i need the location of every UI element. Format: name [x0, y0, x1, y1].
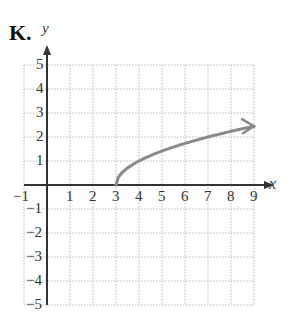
y-tick-label: −5 [26, 296, 42, 313]
y-tick-label: 1 [36, 152, 44, 169]
x-tick-label: 9 [250, 188, 258, 205]
y-tick-label: −4 [26, 272, 42, 289]
x-tick-label: 4 [135, 188, 143, 205]
y-tick-label: 3 [36, 104, 44, 121]
x-axis-label: x [269, 175, 276, 193]
x-tick-label: 7 [204, 188, 212, 205]
y-tick-label: 5 [36, 56, 44, 73]
y-tick-label: 2 [36, 128, 44, 145]
axes [24, 45, 274, 305]
y-tick-label: −2 [26, 224, 42, 241]
x-tick-label: 6 [181, 188, 189, 205]
y-tick-label: −1 [26, 200, 42, 217]
y-axis-label: y [42, 20, 49, 37]
x-tick-label: 8 [227, 188, 235, 205]
y-tick-label: 4 [36, 80, 44, 97]
x-tick-label: 5 [158, 188, 166, 205]
x-tick-label: 1 [66, 188, 74, 205]
problem-label: K. [9, 20, 32, 46]
x-tick-label: 3 [112, 188, 120, 205]
x-tick-label: 2 [89, 188, 97, 205]
y-tick-label: −3 [26, 248, 42, 265]
